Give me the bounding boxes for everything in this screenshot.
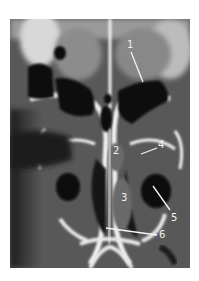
label-4: 4 <box>158 140 164 150</box>
label-3: 3 <box>121 193 127 203</box>
label-6: 6 <box>159 230 165 240</box>
label-2: 2 <box>113 146 119 156</box>
label-1: 1 <box>127 40 133 50</box>
label-5: 5 <box>171 213 177 223</box>
